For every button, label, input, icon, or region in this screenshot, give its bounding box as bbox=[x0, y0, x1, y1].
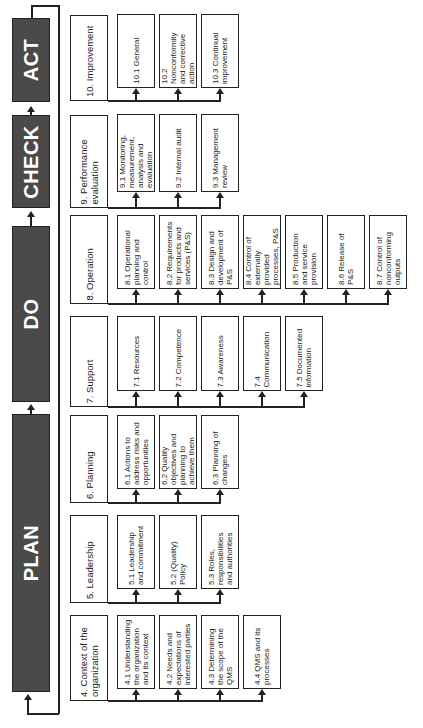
subclause-box: 4.4 QMS and its processes bbox=[243, 615, 281, 689]
phase-label: ACT bbox=[20, 39, 43, 82]
subclause-label: 7.5 Documented information bbox=[295, 320, 313, 387]
subclause-box: 5.1 Leadership and commitment bbox=[117, 515, 155, 589]
arrow-up-icon bbox=[132, 689, 140, 695]
phase-plan: PLAN bbox=[12, 414, 50, 692]
subclause-box: 6.1 Actions to address risks and opportu… bbox=[117, 415, 155, 489]
connector bbox=[219, 494, 221, 502]
connector bbox=[177, 594, 179, 602]
subclause-label: 5.1 Leadership and commitment bbox=[127, 519, 145, 585]
connector bbox=[177, 494, 179, 502]
connector bbox=[108, 303, 389, 305]
connector bbox=[135, 93, 137, 100]
arrow-up-icon bbox=[174, 391, 182, 397]
subclause-label: 6.2 Quality objectives and planning to a… bbox=[160, 419, 196, 485]
phase-label: DO bbox=[20, 299, 43, 330]
subclause-label: 9.3 Management review bbox=[211, 118, 229, 188]
subclause-label: 9.2 Internal audit bbox=[174, 118, 183, 188]
subclause-box: 10.1 General bbox=[117, 14, 155, 88]
connector bbox=[108, 602, 221, 604]
subclause-box: 8.2 Requirements for products and servic… bbox=[159, 215, 197, 289]
loop-line bbox=[27, 700, 29, 714]
subclause-box: 7.4 Communication bbox=[243, 316, 281, 391]
connector bbox=[177, 93, 179, 100]
clause-label: 10. Improvement bbox=[84, 19, 95, 97]
phase-act: ACT bbox=[12, 18, 50, 102]
arrow-up-icon bbox=[174, 689, 182, 695]
arrow-up-icon bbox=[174, 289, 182, 295]
clause-label: 6. Planning bbox=[84, 419, 95, 499]
subclause-label: 7.1 Resources bbox=[132, 320, 141, 387]
subclause-box: 7.3 Awareness bbox=[201, 316, 239, 391]
subclause-label: 10.1 General bbox=[132, 18, 141, 84]
phase-label: CHECK bbox=[20, 125, 43, 199]
subclause-box: 10.3 Continual improvement bbox=[201, 14, 239, 88]
arrow-up-icon bbox=[24, 694, 32, 700]
subclause-box: 8.4 Control of externally provided proce… bbox=[243, 215, 281, 289]
connector bbox=[219, 93, 221, 100]
subclause-box: 4.2 Needs and expectations of interested… bbox=[159, 615, 197, 689]
arrow-up-icon bbox=[132, 589, 140, 595]
phase-do: DO bbox=[12, 226, 50, 402]
subclause-label: 6.1 Actions to address risks and opportu… bbox=[123, 419, 150, 485]
connector bbox=[219, 396, 221, 406]
subclause-box: 4.1 Understanding the organization and i… bbox=[117, 615, 155, 689]
clause-box: 10. Improvement bbox=[70, 15, 108, 101]
connector bbox=[261, 294, 263, 303]
subclause-label: 4.1 Understanding the organization and i… bbox=[123, 619, 150, 685]
subclause-box: 8.7 Control of nonconforming outputs bbox=[369, 215, 407, 289]
connector bbox=[135, 197, 137, 207]
subclause-label: 4.2 Needs and expectations of interested… bbox=[165, 619, 192, 685]
connector bbox=[261, 396, 263, 406]
arrow-up-icon bbox=[132, 88, 140, 94]
clause-label: 9. Performance evaluation bbox=[78, 119, 100, 204]
arrow-up-icon bbox=[258, 391, 266, 397]
clause-label: 4. Context of the organization bbox=[78, 619, 100, 697]
connector bbox=[135, 396, 137, 406]
subclause-box: 9.3 Management review bbox=[201, 114, 239, 192]
connector bbox=[177, 197, 179, 207]
arrow-up-icon bbox=[258, 289, 266, 295]
subclause-box: 8.6 Release of P&S bbox=[327, 215, 365, 289]
clause-label: 5. Leadership bbox=[84, 519, 95, 599]
connector bbox=[303, 294, 305, 303]
subclause-label: 8.4 Control of externally provided proce… bbox=[244, 219, 280, 285]
clause-box: 9. Performance evaluation bbox=[70, 115, 108, 208]
arrow-up-icon bbox=[174, 192, 182, 198]
subclause-box: 9.1 Monitoring, measurement, analysis an… bbox=[117, 114, 155, 192]
loop-line bbox=[31, 5, 59, 7]
connector bbox=[135, 594, 137, 602]
arrow-up-icon bbox=[132, 192, 140, 198]
arrow-up-icon bbox=[132, 391, 140, 397]
arrow-up-icon bbox=[258, 689, 266, 695]
subclause-label: 10.2 Nonconformity and corrective action bbox=[160, 18, 196, 84]
arrow-up-icon bbox=[216, 88, 224, 94]
subclause-label: 5.2 (Quality) Policy bbox=[169, 519, 187, 585]
subclause-label: 9.1 Monitoring, measurement, analysis an… bbox=[118, 118, 154, 188]
arrow-up-icon bbox=[174, 489, 182, 495]
arrow-up-icon bbox=[174, 88, 182, 94]
subclause-label: 8.6 Release of P&S bbox=[337, 219, 355, 285]
arrow-up-icon bbox=[216, 489, 224, 495]
connector bbox=[135, 494, 137, 502]
connector bbox=[387, 294, 389, 303]
subclause-label: 10.3 Continual improvement bbox=[211, 18, 229, 84]
subclause-label: 4.3 Determining the scope of the QMS bbox=[207, 619, 234, 685]
connector bbox=[108, 700, 263, 702]
subclause-box: 5.3 Roles, responsibilities and authorit… bbox=[201, 515, 239, 589]
connector bbox=[303, 396, 305, 406]
connector bbox=[108, 502, 221, 504]
connector bbox=[177, 294, 179, 303]
subclause-label: 4.4 QMS and its processes bbox=[253, 619, 271, 685]
connector bbox=[219, 594, 221, 602]
connector bbox=[135, 294, 137, 303]
loop-line bbox=[31, 5, 33, 18]
subclause-box: 6.2 Quality objectives and planning to a… bbox=[159, 415, 197, 489]
connector bbox=[30, 215, 32, 226]
subclause-label: 7.2 Competence bbox=[174, 320, 183, 387]
clause-box: 6. Planning bbox=[70, 415, 108, 503]
clause-box: 5. Leadership bbox=[70, 515, 108, 603]
arrow-up-icon bbox=[216, 391, 224, 397]
subclause-box: 10.2 Nonconformity and corrective action bbox=[159, 14, 197, 88]
subclause-label: 7.3 Awareness bbox=[216, 320, 225, 387]
arrow-up-icon bbox=[342, 289, 350, 295]
